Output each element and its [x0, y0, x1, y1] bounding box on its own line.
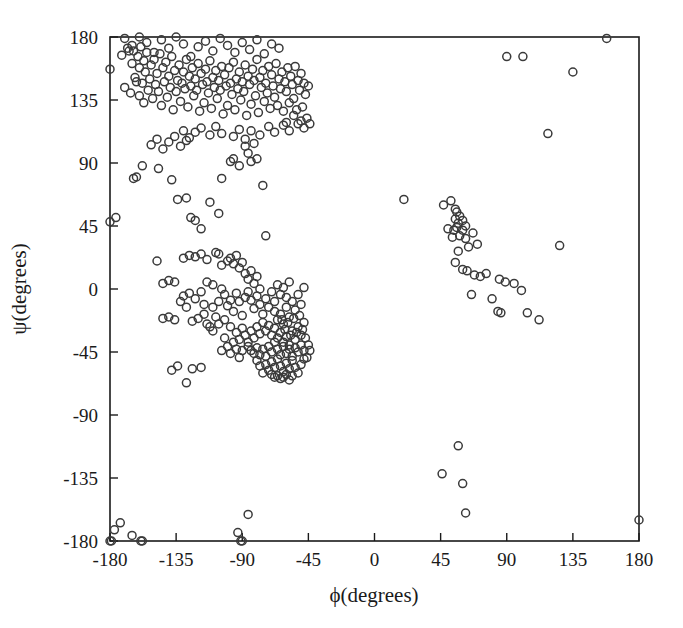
- data-point-marker: [232, 289, 240, 297]
- data-point-marker: [177, 97, 185, 105]
- y-tick-label: 45: [79, 216, 98, 237]
- data-point-marker: [238, 312, 246, 320]
- data-point-marker: [154, 88, 162, 96]
- x-axis-tick-marks: [110, 533, 639, 541]
- data-point-marker: [247, 127, 255, 135]
- data-point-marker: [202, 37, 210, 45]
- data-point-marker: [128, 531, 136, 539]
- data-point-marker: [209, 47, 217, 55]
- data-point-marker: [153, 135, 161, 143]
- x-axis-tick-labels: -180-135-90-4504590135180: [93, 549, 654, 570]
- x-tick-label: -180: [93, 549, 128, 570]
- data-point-marker: [218, 347, 226, 355]
- data-point-marker: [229, 307, 237, 315]
- data-point-marker: [213, 95, 221, 103]
- data-point-marker: [128, 60, 136, 68]
- data-point-marker: [603, 34, 611, 42]
- data-point-marker: [154, 165, 162, 173]
- x-tick-label: 180: [625, 549, 654, 570]
- data-point-marker: [253, 292, 261, 300]
- data-point-marker: [294, 291, 302, 299]
- data-point-marker: [197, 225, 205, 233]
- data-point-marker: [459, 480, 467, 488]
- data-point-marker: [237, 96, 245, 104]
- data-point-marker: [168, 53, 176, 61]
- y-tick-label: -45: [73, 342, 98, 363]
- y-tick-label: 135: [70, 90, 99, 111]
- data-point-marker: [262, 232, 270, 240]
- data-point-marker: [272, 60, 280, 68]
- data-point-marker: [140, 99, 148, 107]
- y-axis-tick-labels: -180-135-90-4504590135180: [63, 27, 98, 552]
- data-point-marker: [194, 43, 202, 51]
- data-point-marker: [179, 127, 187, 135]
- data-point-marker: [260, 50, 268, 58]
- data-point-marker: [172, 88, 180, 96]
- data-point-marker: [454, 442, 462, 450]
- data-point-marker: [451, 258, 459, 266]
- data-point-marker: [488, 295, 496, 303]
- data-point-marker: [254, 109, 262, 117]
- data-point-marker: [215, 209, 223, 217]
- data-point-marker: [215, 298, 223, 306]
- data-point-marker: [165, 44, 173, 52]
- data-point-marker: [238, 39, 246, 47]
- ramachandran-plot-figure: -180-135-90-4504590135180 -180-135-90-45…: [0, 0, 683, 628]
- data-point-marker: [174, 195, 182, 203]
- data-point-marker: [301, 90, 309, 98]
- data-point-marker: [268, 71, 276, 79]
- data-point-marker: [279, 107, 287, 115]
- data-point-marker: [244, 149, 252, 157]
- data-point-marker: [138, 162, 146, 170]
- data-point-marker: [306, 347, 314, 355]
- data-point-marker: [218, 62, 226, 70]
- data-point-marker: [246, 46, 254, 54]
- data-point-marker: [218, 130, 226, 138]
- data-point-marker: [253, 55, 261, 63]
- data-point-marker: [140, 57, 148, 65]
- data-point-marker: [221, 316, 229, 324]
- data-point-marker: [250, 139, 258, 147]
- data-point-marker: [465, 243, 473, 251]
- data-point-marker: [288, 298, 296, 306]
- data-point-marker: [253, 272, 261, 280]
- data-point-marker: [503, 53, 511, 61]
- data-point-marker: [473, 240, 481, 248]
- data-point-marker: [234, 529, 242, 537]
- data-point-marker: [231, 106, 239, 114]
- data-point-marker: [260, 97, 268, 105]
- data-point-marker: [275, 44, 283, 52]
- data-point-marker: [300, 284, 308, 292]
- data-point-marker: [263, 89, 271, 97]
- data-point-marker: [149, 95, 157, 103]
- data-point-marker: [259, 181, 267, 189]
- data-point-marker: [454, 247, 462, 255]
- y-tick-label: -90: [73, 405, 98, 426]
- data-point-marker: [271, 93, 279, 101]
- x-tick-label: -135: [159, 549, 194, 570]
- data-point-marker: [143, 39, 151, 47]
- data-point-marker: [462, 509, 470, 517]
- data-point-marker: [510, 279, 518, 287]
- data-point-marker: [196, 107, 204, 115]
- data-point-marker: [256, 131, 264, 139]
- data-point-marker: [291, 62, 299, 70]
- scatter-data-points: [106, 33, 643, 545]
- data-point-marker: [159, 145, 167, 153]
- data-point-marker: [219, 110, 227, 118]
- data-point-marker: [300, 124, 308, 132]
- data-point-marker: [285, 278, 293, 286]
- x-axis-title: ϕ(degrees): [329, 583, 418, 607]
- x-tick-label: -45: [296, 549, 321, 570]
- data-point-marker: [174, 362, 182, 370]
- data-point-marker: [284, 64, 292, 72]
- data-point-marker: [241, 61, 249, 69]
- data-point-marker: [212, 123, 220, 131]
- data-point-marker: [200, 300, 208, 308]
- data-point-marker: [249, 65, 257, 73]
- data-point-marker: [544, 130, 552, 138]
- scatter-plot-canvas: -180-135-90-4504590135180 -180-135-90-45…: [0, 0, 683, 628]
- data-point-marker: [224, 102, 232, 110]
- data-point-marker: [121, 34, 129, 42]
- data-point-marker: [110, 526, 118, 534]
